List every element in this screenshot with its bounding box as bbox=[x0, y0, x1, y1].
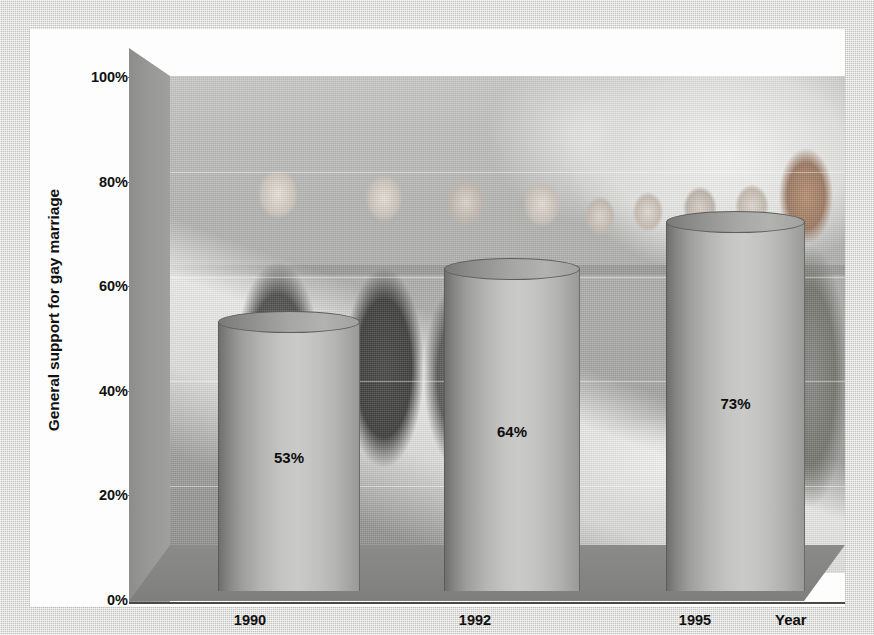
y-tick-label-40: 40% bbox=[70, 383, 128, 399]
bar-value-label-1992: 64% bbox=[444, 423, 580, 440]
gridline-80 bbox=[170, 172, 845, 173]
bar-top-ellipse-1990 bbox=[218, 311, 360, 333]
y-tick-label-60: 60% bbox=[70, 278, 128, 294]
bar-value-label-1990: 53% bbox=[218, 449, 360, 466]
x-axis-title: Year bbox=[775, 611, 807, 628]
y-tick-label-0: 0% bbox=[70, 592, 128, 608]
y-axis-title: General support for gay marriage bbox=[45, 145, 63, 475]
page-root: General support for gay marriage 100% 80… bbox=[0, 0, 874, 635]
bar-top-ellipse-1992 bbox=[444, 258, 580, 280]
y-axis-ticks: 100% 80% 60% 40% 20% 0% bbox=[66, 29, 128, 607]
chart-card: General support for gay marriage 100% 80… bbox=[30, 29, 845, 607]
bar-cylinder-1990[interactable]: 53% bbox=[218, 311, 360, 602]
y-tick-label-20: 20% bbox=[70, 487, 128, 503]
x-axis-line bbox=[129, 602, 845, 604]
plot-left-wall bbox=[129, 48, 170, 603]
bar-value-label-1995: 73% bbox=[666, 395, 805, 412]
bar-cylinder-1995[interactable]: 73% bbox=[666, 211, 805, 602]
x-tick-label-1990: 1990 bbox=[190, 612, 310, 628]
x-tick-label-1995: 1995 bbox=[635, 612, 755, 628]
x-tick-label-1992: 1992 bbox=[415, 612, 535, 628]
y-tick-label-100: 100% bbox=[70, 69, 128, 85]
y-tick-label-80: 80% bbox=[70, 174, 128, 190]
plot-area: 53% 64% 73% bbox=[129, 29, 845, 607]
bar-top-ellipse-1995 bbox=[666, 211, 805, 233]
bar-cylinder-1992[interactable]: 64% bbox=[444, 258, 580, 602]
